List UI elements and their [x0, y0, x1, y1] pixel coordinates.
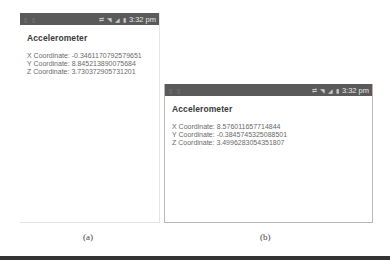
y-coordinate: Y Coordinate: -0.3845745325088501 — [172, 131, 372, 139]
z-coordinate: Z Coordinate: 3.4996283054351807 — [172, 139, 372, 147]
clock: 3:32 pm — [129, 15, 156, 24]
signal-icon: ◢ — [115, 16, 120, 23]
clock: 3:32 pm — [342, 86, 369, 95]
y-coordinate: Y Coordinate: 8.845213890075684 — [27, 60, 159, 68]
wifi-icon: ◥ — [107, 16, 112, 23]
status-bar: ▯▯ ⇄ ◥ ◢ ▮ 3:32 pm — [20, 13, 159, 25]
app-title: Accelerometer — [27, 33, 159, 43]
battery-icon: ▮ — [123, 16, 126, 23]
x-coordinate: X Coordinate: 8.576011657714844 — [172, 123, 372, 131]
sync-icon: ⇄ — [312, 87, 317, 94]
page-bottom-rule — [0, 256, 390, 260]
x-coordinate: X Coordinate: -0.3461170792579651 — [27, 52, 159, 60]
signal-icon: ◢ — [328, 87, 333, 94]
status-bar: ▯▯ ⇄ ◥ ◢ ▮ 3:32 pm — [165, 84, 372, 96]
battery-icon: ▮ — [336, 87, 339, 94]
phone-screenshot-a: ▯▯ ⇄ ◥ ◢ ▮ 3:32 pm Accelerometer X Coord… — [20, 13, 160, 223]
sync-icon: ⇄ — [99, 16, 104, 23]
coordinate-list: X Coordinate: 8.576011657714844 Y Coordi… — [172, 123, 372, 147]
app-title: Accelerometer — [172, 104, 372, 114]
coordinate-list: X Coordinate: -0.3461170792579651 Y Coor… — [27, 52, 159, 76]
notification-icon: ▯ — [32, 16, 35, 23]
notification-icon: ▯ — [24, 16, 27, 23]
notification-icon: ▯ — [169, 87, 172, 94]
caption-b: (b) — [260, 232, 271, 242]
z-coordinate: Z Coordinate: 3.730372905731201 — [27, 68, 159, 76]
caption-a: (a) — [83, 232, 93, 242]
notification-icon: ▯ — [177, 87, 180, 94]
phone-screenshot-b: ▯▯ ⇄ ◥ ◢ ▮ 3:32 pm Accelerometer X Coord… — [164, 84, 373, 223]
wifi-icon: ◥ — [320, 87, 325, 94]
